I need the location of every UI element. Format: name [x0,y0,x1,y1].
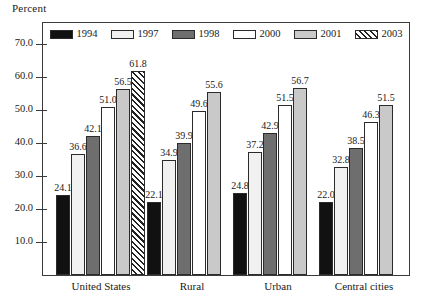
bar-value-label: 39.9 [175,131,193,141]
bar-slot: 37.2 [248,23,262,275]
bar-group: 22.134.939.949.655.6 [147,23,239,275]
bar-value-label: 22.0 [317,190,335,200]
bar[interactable] [263,133,277,275]
bar-value-label: 56.7 [291,76,309,86]
bar-slot: 51.5 [278,23,292,275]
bar[interactable] [207,92,221,275]
bar-value-label: 38.5 [347,136,365,146]
bar-group-bars: 22.134.939.949.655.6 [147,23,239,275]
bar-value-label: 49.6 [190,99,208,109]
y-axis-tick-label: 40.0 [15,136,33,147]
bar-slot: 51.5 [379,23,393,275]
plot-area: 24.136.642.151.056.561.822.134.939.949.6… [43,23,409,275]
bar-slot: 22.1 [147,23,161,275]
bar-slot: 42.1 [86,23,100,275]
y-axis-title: Percent [12,2,46,14]
bar[interactable] [293,88,307,275]
bar[interactable] [147,202,161,275]
bar-value-label: 32.8 [332,155,350,165]
bar-value-label: 42.9 [261,121,279,131]
bar-slot: 24.8 [233,23,247,275]
bar[interactable] [334,167,348,275]
bar-value-label: 56.5 [114,77,132,87]
bar-group: 24.837.242.951.556.7 [233,23,325,275]
bar-slot: 22.0 [319,23,333,275]
bar-slot: 55.6 [207,23,221,275]
bar-value-label: 51.5 [276,93,294,103]
bar-value-label: 36.6 [69,142,87,152]
bar[interactable] [248,152,262,275]
bar-slot: 39.9 [177,23,191,275]
bar-slot: 61.8 [131,23,145,275]
bar[interactable] [364,122,378,275]
bar-slot: 42.9 [263,23,277,275]
x-axis-category-label: Urban [264,280,292,292]
bar-value-label: 42.1 [84,124,102,134]
x-axis-category-label: United States [72,280,131,292]
bar[interactable] [86,136,100,275]
bar-slot: 56.5 [116,23,130,275]
y-axis-tick-label: 50.0 [15,103,33,114]
y-axis-tick-label: 30.0 [15,169,33,180]
bar-slot: 49.6 [192,23,206,275]
bar-value-label: 51.0 [99,95,117,105]
bar[interactable] [131,71,145,275]
bar-group-bars: 24.837.242.951.556.7 [233,23,325,275]
bar-group-bars: 22.032.838.546.351.5 [319,23,411,275]
bar[interactable] [319,202,333,275]
bar[interactable] [233,193,247,275]
bar-slot [394,23,408,275]
bar[interactable] [192,111,206,275]
bar[interactable] [278,105,292,275]
bar-slot: 24.1 [56,23,70,275]
bar-slot: 51.0 [101,23,115,275]
bar-slot: 36.6 [71,23,85,275]
bar-value-label: 34.9 [160,148,178,158]
bar-value-label: 46.3 [362,110,380,120]
bar-group-bars: 24.136.642.151.056.561.8 [56,23,148,275]
bar[interactable] [116,89,130,275]
x-axis-category-label: Central cities [335,280,393,292]
bar-slot: 38.5 [349,23,363,275]
bar-slot: 46.3 [364,23,378,275]
bar-chart: Percent 10.020.030.040.050.060.070.0 199… [0,0,427,300]
bar-value-label: 22.1 [145,190,163,200]
bar-slot: 32.8 [334,23,348,275]
x-axis-category-label: Rural [180,280,204,292]
y-axis-tick-label: 10.0 [15,235,33,246]
y-axis-tick-label: 60.0 [15,70,33,81]
bar[interactable] [71,154,85,275]
bar[interactable] [349,148,363,275]
bar-group: 24.136.642.151.056.561.8 [56,23,148,275]
bar-value-label: 55.6 [205,80,223,90]
bar-value-label: 24.8 [231,181,249,191]
bar[interactable] [101,107,115,275]
bar-slot: 34.9 [162,23,176,275]
bar[interactable] [162,160,176,275]
bar-value-label: 61.8 [129,59,147,69]
bar-value-label: 51.5 [377,93,395,103]
bar-group: 22.032.838.546.351.5 [319,23,411,275]
bar-slot: 56.7 [293,23,307,275]
bar[interactable] [177,143,191,275]
bar-value-label: 24.1 [54,183,72,193]
bar[interactable] [379,105,393,275]
y-axis-tick-label: 70.0 [15,37,33,48]
bar[interactable] [56,195,70,275]
y-axis-tick-label: 20.0 [15,202,33,213]
bar-value-label: 37.2 [246,140,264,150]
